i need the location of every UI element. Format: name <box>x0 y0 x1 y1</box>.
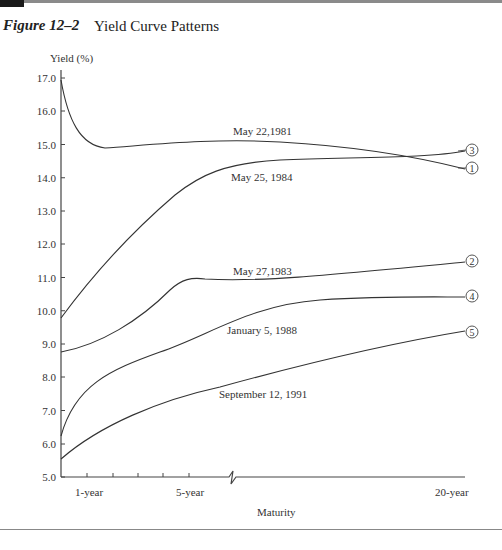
svg-text:3: 3 <box>470 145 475 156</box>
svg-text:12.0: 12.0 <box>37 238 57 250</box>
marker-1: 1 <box>466 162 478 174</box>
svg-text:9.0: 9.0 <box>42 338 56 350</box>
marker-4: 4 <box>466 290 478 302</box>
svg-text:15.0: 15.0 <box>37 139 57 151</box>
marker-5: 5 <box>466 326 478 338</box>
svg-text:1-year: 1-year <box>75 486 103 498</box>
curve-4-january-5-1988 <box>61 297 465 436</box>
svg-text:20-year: 20-year <box>435 486 469 498</box>
label-january-5-1988: January 5, 1988 <box>227 324 297 336</box>
label-may-22-1981: May 22,1981 <box>233 125 292 137</box>
marker-2: 2 <box>466 255 478 267</box>
svg-text:6.0: 6.0 <box>42 438 56 450</box>
svg-text:11.0: 11.0 <box>37 272 56 284</box>
svg-text:16.0: 16.0 <box>37 105 57 117</box>
svg-text:13.0: 13.0 <box>37 205 57 217</box>
svg-text:4: 4 <box>470 291 475 302</box>
series-markers: 3 1 2 4 5 <box>466 144 478 338</box>
svg-text:8.0: 8.0 <box>42 371 56 383</box>
label-may-25-1984: May 25, 1984 <box>231 171 293 183</box>
svg-text:2: 2 <box>470 256 475 267</box>
svg-text:1: 1 <box>470 163 475 174</box>
label-september-12-1991: September 12, 1991 <box>219 388 307 400</box>
yield-curve-chart: Yield (%) 5.0 6.0 7.0 8.0 9.0 10.0 11.0 … <box>0 0 502 550</box>
svg-text:5-year: 5-year <box>176 486 204 498</box>
svg-text:10.0: 10.0 <box>37 305 57 317</box>
x-axis-with-break <box>61 471 465 484</box>
marker-3: 3 <box>466 144 478 156</box>
marker-leaders <box>458 150 466 168</box>
svg-text:14.0: 14.0 <box>37 172 57 184</box>
svg-text:17.0: 17.0 <box>37 72 57 84</box>
x-tick-labels: 1-year 5-year 20-year <box>75 486 469 498</box>
svg-text:5: 5 <box>470 327 475 338</box>
svg-text:5.0: 5.0 <box>42 471 56 483</box>
x-axis-label: Maturity <box>257 506 296 518</box>
label-may-27-1983: May 27,1983 <box>233 265 292 277</box>
svg-text:7.0: 7.0 <box>42 405 56 417</box>
y-axis-label: Yield (%) <box>50 52 93 65</box>
y-tick-labels: 5.0 6.0 7.0 8.0 9.0 10.0 11.0 12.0 13.0 … <box>37 72 57 483</box>
